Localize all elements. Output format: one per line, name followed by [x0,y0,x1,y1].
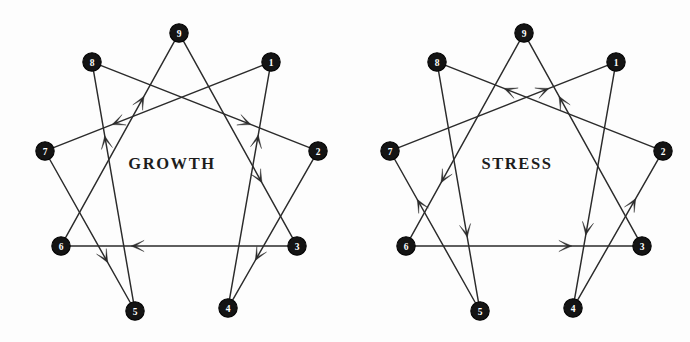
node-label-6: 6 [404,242,409,252]
arrowhead-9-to-6 [441,169,452,183]
node-label-4: 4 [571,304,576,314]
arrowhead-2-to-4 [255,246,266,260]
enneagram-connector-2-to-4 [233,159,314,300]
enneagram-connector-2-to-8 [446,65,655,147]
arrowhead-7-to-5 [97,249,108,263]
stress-diagram-canvas: 912345678 STRESS [345,0,690,342]
enneagram-node-7[interactable]: 7 [36,142,54,160]
node-label-8: 8 [435,58,440,68]
enneagram-node-6[interactable]: 6 [52,237,70,255]
arrowhead-4-to-2 [624,198,635,212]
enneagram-node-3[interactable]: 3 [288,237,306,255]
enneagram-node-4[interactable]: 4 [219,299,237,317]
arrowhead-6-to-9 [133,96,144,110]
enneagram-panel-stress: 912345678 STRESS [345,0,690,342]
enneagram-connector-1-to-7 [54,65,263,147]
node-label-6: 6 [59,242,64,252]
node-label-9: 9 [522,29,527,39]
arrowhead-5-to-7 [417,199,428,213]
node-label-7: 7 [43,147,48,157]
enneagram-figure: 912345678 GROWTH 912345678 STRESS [0,0,690,342]
node-label-1: 1 [614,58,619,68]
stress-center-label: STRESS [481,154,552,173]
node-label-5: 5 [133,307,138,317]
enneagram-node-8[interactable]: 8 [428,53,446,71]
arrowhead-3-to-9 [559,96,570,110]
enneagram-node-3[interactable]: 3 [633,237,651,255]
enneagram-panel-growth: 912345678 GROWTH [0,0,345,342]
node-label-7: 7 [388,147,393,157]
enneagram-node-5[interactable]: 5 [126,302,144,320]
node-label-3: 3 [640,242,645,252]
enneagram-connector-3-to-9 [528,41,637,238]
enneagram-node-1[interactable]: 1 [607,53,625,71]
enneagram-connector-5-to-8 [94,71,134,302]
enneagram-node-9[interactable]: 9 [515,24,533,42]
enneagram-node-6[interactable]: 6 [397,237,415,255]
node-label-5: 5 [478,307,483,317]
enneagram-connector-7-to-5 [50,159,131,303]
enneagram-connector-8-to-5 [439,71,479,302]
node-label-2: 2 [316,147,321,157]
growth-center-label: GROWTH [128,154,216,173]
enneagram-connector-6-to-9 [65,41,174,238]
enneagram-node-4[interactable]: 4 [564,299,582,317]
enneagram-connector-9-to-6 [410,41,519,238]
enneagram-connector-9-to-3 [183,41,292,238]
enneagram-node-7[interactable]: 7 [381,142,399,160]
enneagram-node-9[interactable]: 9 [170,24,188,42]
enneagram-node-5[interactable]: 5 [471,302,489,320]
enneagram-node-2[interactable]: 2 [309,142,327,160]
node-label-9: 9 [177,29,182,39]
enneagram-connector-7-to-1 [399,65,608,147]
node-label-8: 8 [90,58,95,68]
node-label-2: 2 [661,147,666,157]
node-label-1: 1 [269,58,274,68]
enneagram-node-2[interactable]: 2 [654,142,672,160]
enneagram-node-1[interactable]: 1 [262,53,280,71]
enneagram-node-8[interactable]: 8 [83,53,101,71]
enneagram-connector-4-to-2 [578,159,659,300]
growth-diagram-canvas: 912345678 GROWTH [0,0,345,342]
node-label-4: 4 [226,304,231,314]
node-label-3: 3 [295,242,300,252]
enneagram-connector-8-to-2 [101,65,310,147]
